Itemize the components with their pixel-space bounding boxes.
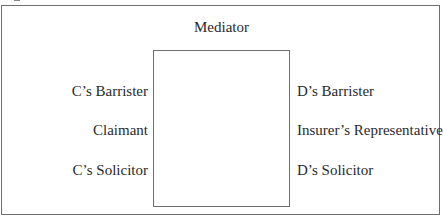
insurer-representative-label: Insurer’s Representative	[297, 121, 443, 139]
cropped-caption-fragment	[6, 0, 22, 2]
claimant-label: Claimant	[93, 121, 148, 139]
claimant-solicitor-label: C’s Solicitor	[73, 161, 148, 179]
defendant-solicitor-label: D’s Solicitor	[297, 161, 373, 179]
claimant-barrister-label: C’s Barrister	[72, 82, 148, 100]
mediation-table	[153, 50, 290, 207]
defendant-barrister-label: D’s Barrister	[297, 82, 374, 100]
mediator-label: Mediator	[0, 18, 443, 36]
